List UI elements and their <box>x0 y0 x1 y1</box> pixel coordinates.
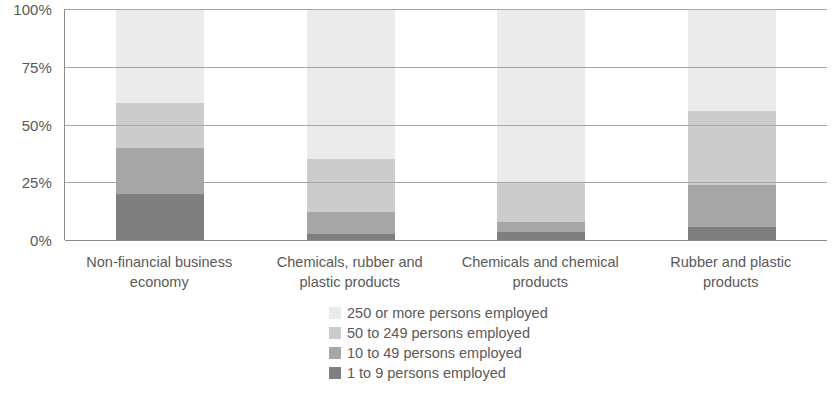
legend-swatch-icon <box>329 367 341 379</box>
y-axis-tick-label: 0% <box>30 232 52 249</box>
bar-segment[interactable] <box>497 232 585 240</box>
bar-segment[interactable] <box>307 159 395 212</box>
bar-segment[interactable] <box>688 185 776 228</box>
x-axis-category-label: Chemicals, rubber andplastic products <box>255 252 446 292</box>
category-label-line: Non-financial business <box>64 252 255 272</box>
legend-item[interactable]: 50 to 249 persons employed <box>329 323 659 343</box>
legend-label: 250 or more persons employed <box>347 303 548 323</box>
bar-segment[interactable] <box>497 222 585 232</box>
category-label-line: Rubber and plastic <box>636 252 827 272</box>
legend-item[interactable]: 1 to 9 persons employed <box>329 363 659 383</box>
bar-segment[interactable] <box>497 9 585 183</box>
category-label-line: Chemicals, rubber and <box>255 252 446 272</box>
gridline <box>65 9 827 10</box>
bar-segment[interactable] <box>688 9 776 111</box>
legend-swatch-icon <box>329 347 341 359</box>
legend-label: 50 to 249 persons employed <box>347 323 530 343</box>
plot-region: 100%75%50%25%0% <box>0 0 835 250</box>
bar-segment[interactable] <box>116 9 204 103</box>
bar-segment[interactable] <box>497 183 585 221</box>
x-axis-line <box>65 240 827 241</box>
chart-legend: 250 or more persons employed50 to 249 pe… <box>329 303 659 383</box>
stacked-bar-chart: 100%75%50%25%0% Non-financial businessec… <box>0 0 835 400</box>
plot-area <box>64 9 827 240</box>
category-label-line: plastic products <box>255 272 446 292</box>
x-axis-category-label: Chemicals and chemicalproducts <box>445 252 636 292</box>
gridline <box>65 125 827 126</box>
legend-label: 10 to 49 persons employed <box>347 343 522 363</box>
y-axis-tick-label: 25% <box>22 174 52 191</box>
category-label-line: products <box>445 272 636 292</box>
y-axis-tick-label: 50% <box>22 116 52 133</box>
category-label-line: products <box>636 272 827 292</box>
bar-segment[interactable] <box>116 194 204 240</box>
legend-label: 1 to 9 persons employed <box>347 363 506 383</box>
y-axis: 100%75%50%25%0% <box>0 0 58 250</box>
legend-swatch-icon <box>329 307 341 319</box>
category-label-line: economy <box>64 272 255 292</box>
y-axis-tick-label: 100% <box>13 1 52 18</box>
gridline <box>65 182 827 183</box>
x-axis-category-label: Non-financial businesseconomy <box>64 252 255 292</box>
legend-swatch-icon <box>329 327 341 339</box>
category-label-line: Chemicals and chemical <box>445 252 636 272</box>
x-axis-category-labels: Non-financial businesseconomyChemicals, … <box>64 252 826 302</box>
bar-segment[interactable] <box>116 148 204 194</box>
legend-item[interactable]: 10 to 49 persons employed <box>329 343 659 363</box>
legend-item[interactable]: 250 or more persons employed <box>329 303 659 323</box>
x-axis-category-label: Rubber and plasticproducts <box>636 252 827 292</box>
gridline <box>65 67 827 68</box>
y-axis-tick-label: 75% <box>22 58 52 75</box>
bar-segment[interactable] <box>307 9 395 159</box>
bar-segment[interactable] <box>688 111 776 185</box>
bar-segment[interactable] <box>307 212 395 234</box>
bar-segment[interactable] <box>688 227 776 240</box>
